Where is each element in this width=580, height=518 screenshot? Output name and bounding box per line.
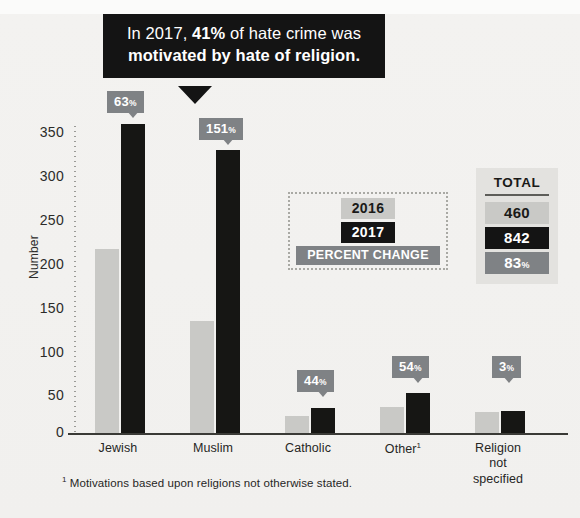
badge-muslim-tail-icon bbox=[222, 138, 234, 145]
total-percent-change: 83% bbox=[485, 252, 549, 274]
badge-catholic: 44% bbox=[297, 370, 334, 392]
badge-jewish: 63% bbox=[107, 91, 144, 113]
badge-religion-not-specified-tail-icon bbox=[503, 376, 515, 383]
y-tick-150: 150 bbox=[18, 300, 64, 316]
badge-other: 54% bbox=[392, 356, 429, 378]
x-label-catholic: Catholic bbox=[253, 441, 363, 456]
y-tick-0: 0 bbox=[18, 424, 64, 440]
badge-other-unit: % bbox=[414, 363, 422, 373]
bar-religion-not-specified-2016 bbox=[475, 412, 499, 433]
bar-jewish-2016 bbox=[95, 249, 119, 433]
total-percent-change-value: 83 bbox=[504, 254, 521, 271]
badge-catholic-value: 44 bbox=[304, 373, 319, 388]
x-label-rns-line3: specified bbox=[443, 472, 553, 487]
badge-muslim: 151% bbox=[199, 118, 243, 140]
bar-catholic-2016 bbox=[285, 416, 309, 433]
y-tick-50: 50 bbox=[18, 387, 64, 403]
y-tick-350: 350 bbox=[18, 124, 64, 140]
x-label-other-text: Other bbox=[385, 442, 417, 456]
bar-muslim-2017 bbox=[216, 150, 240, 433]
y-tick-200: 200 bbox=[18, 256, 64, 272]
badge-religion-not-specified: 3% bbox=[492, 356, 521, 378]
footnote: 1 Motivations based upon religions not o… bbox=[62, 475, 352, 489]
total-panel-header: TOTAL bbox=[485, 175, 549, 196]
x-axis-baseline bbox=[68, 433, 568, 435]
badge-muslim-unit: % bbox=[228, 125, 236, 135]
badge-jewish-tail-icon bbox=[127, 111, 139, 118]
total-2016: 460 bbox=[485, 202, 549, 224]
x-label-religion-not-specified: Religion not specified bbox=[443, 441, 553, 487]
total-panel: TOTAL 460 842 83% bbox=[476, 168, 558, 284]
total-2017: 842 bbox=[485, 227, 549, 249]
x-label-other: Other1 bbox=[348, 441, 458, 457]
chart-legend: 2016 2017 PERCENT CHANGE bbox=[288, 192, 448, 270]
x-label-rns-line1: Religion bbox=[443, 441, 553, 456]
x-label-jewish: Jewish bbox=[63, 441, 173, 456]
bar-jewish-2017 bbox=[121, 124, 145, 433]
x-label-rns-line2: not bbox=[443, 456, 553, 471]
badge-religion-not-specified-unit: % bbox=[506, 363, 514, 373]
bar-catholic-2017 bbox=[311, 408, 335, 433]
legend-item-percent-change: PERCENT CHANGE bbox=[296, 246, 440, 265]
badge-other-value: 54 bbox=[399, 359, 414, 374]
legend-item-2017: 2017 bbox=[341, 222, 396, 243]
legend-item-2016: 2016 bbox=[341, 198, 396, 219]
badge-muslim-value: 151 bbox=[206, 121, 228, 136]
axis-dotted-guide bbox=[74, 126, 76, 434]
bar-muslim-2016 bbox=[190, 321, 214, 433]
badge-other-tail-icon bbox=[412, 376, 424, 383]
badge-jewish-unit: % bbox=[129, 98, 137, 108]
y-tick-250: 250 bbox=[18, 212, 64, 228]
x-label-other-footnote-marker: 1 bbox=[417, 441, 422, 450]
badge-jewish-value: 63 bbox=[114, 94, 129, 109]
badge-catholic-unit: % bbox=[319, 377, 327, 387]
footnote-text: Motivations based upon religions not oth… bbox=[67, 477, 353, 489]
bar-religion-not-specified-2017 bbox=[501, 411, 525, 433]
y-tick-300: 300 bbox=[18, 168, 64, 184]
bar-other-2016 bbox=[380, 407, 404, 433]
y-tick-100: 100 bbox=[18, 344, 64, 360]
bar-other-2017 bbox=[406, 393, 430, 433]
badge-catholic-tail-icon bbox=[317, 390, 329, 397]
x-label-muslim: Muslim bbox=[158, 441, 268, 456]
total-percent-change-unit: % bbox=[521, 260, 529, 270]
infographic-page: In 2017, 41% of hate crime was motivated… bbox=[0, 0, 580, 518]
